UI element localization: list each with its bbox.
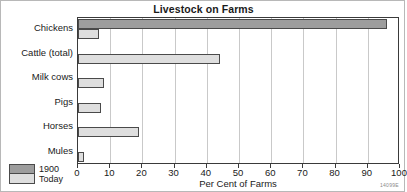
chart-title: Livestock on Farms [1, 3, 406, 15]
legend: 1900 Today [9, 164, 63, 184]
x-axis-tick-label: 0 [74, 167, 79, 178]
x-axis-tick-label: 60 [265, 167, 276, 178]
legend-label-1900: 1900 [39, 164, 63, 174]
corner-code: 14099E [380, 182, 399, 188]
x-axis-tick-label: 10 [104, 167, 115, 178]
legend-labels: 1900 Today [39, 164, 63, 184]
bar-chickens-1900 [78, 19, 387, 29]
bar-group [78, 93, 400, 118]
y-axis-label-pigs: Pigs [3, 96, 77, 107]
bar-group [78, 117, 400, 142]
legend-swatches [9, 164, 35, 184]
bar-cattle-total-today [78, 54, 220, 64]
x-axis-tick-label: 90 [362, 167, 373, 178]
y-axis-label-chickens: Chickens [3, 22, 77, 33]
bar-group [78, 68, 400, 93]
x-axis-tick-label: 100 [391, 167, 407, 178]
bar-mules-today [78, 152, 84, 162]
x-axis-tick-label: 40 [201, 167, 212, 178]
y-axis-label-mules: Mules [3, 145, 77, 156]
bar-chickens-today [78, 29, 99, 39]
bar-milk-cows-today [78, 78, 104, 88]
x-axis-tick-label: 80 [329, 167, 340, 178]
bar-group [78, 44, 400, 69]
legend-swatch-1900 [10, 165, 34, 174]
y-axis-label-cattle-total: Cattle (total) [3, 47, 77, 58]
x-axis-tick-label: 70 [297, 167, 308, 178]
bar-horses-today [78, 127, 139, 137]
y-axis-label-horses: Horses [3, 120, 77, 131]
bar-group [78, 142, 400, 167]
legend-swatch-today [10, 174, 34, 183]
x-axis-tick-label: 30 [168, 167, 179, 178]
legend-label-today: Today [39, 174, 63, 184]
x-axis-tick-label: 50 [233, 167, 244, 178]
plot-area [77, 17, 399, 164]
x-axis-tick-label: 20 [136, 167, 147, 178]
x-axis-title: Per Cent of Farms [77, 178, 399, 189]
bar-group [78, 19, 400, 44]
y-axis-label-milk-cows: Milk cows [3, 71, 77, 82]
y-axis-labels: ChickensCattle (total)Milk cowsPigsHorse… [1, 17, 77, 164]
bar-pigs-today [78, 103, 101, 113]
